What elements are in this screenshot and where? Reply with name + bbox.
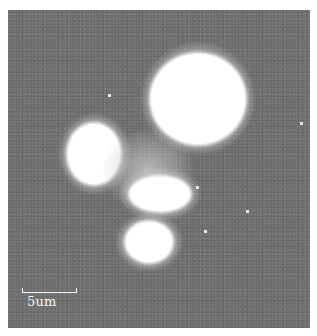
lower-cell [126, 222, 172, 262]
scale-bar-label: 5um [27, 294, 57, 309]
large-cell [151, 54, 245, 144]
speck [108, 94, 111, 97]
speck [204, 230, 207, 233]
middle-cell [130, 177, 190, 211]
speck [300, 122, 303, 125]
scale-bar [22, 288, 77, 293]
speck [246, 210, 249, 213]
speck [196, 186, 199, 189]
micrograph-image: 5um [8, 10, 310, 328]
